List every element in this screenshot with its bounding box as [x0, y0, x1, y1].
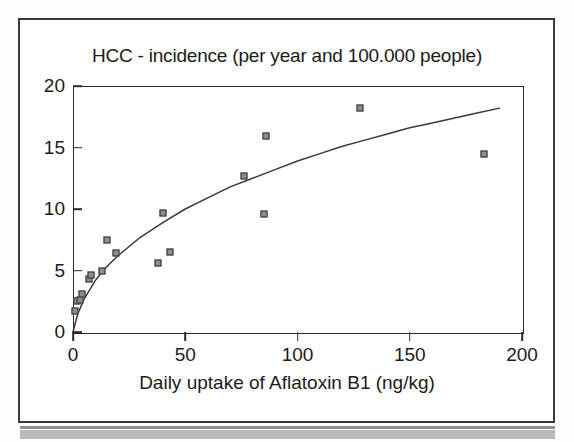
data-point	[99, 267, 106, 274]
data-point	[87, 272, 94, 279]
x-axis-label: Daily uptake of Aflatoxin B1 (ng/kg)	[0, 372, 574, 394]
data-point	[76, 297, 83, 304]
y-tick-label: 20	[44, 75, 65, 97]
x-tick-label: 150	[394, 344, 426, 366]
data-point	[357, 105, 364, 112]
data-point	[166, 249, 173, 256]
scanned-page: HCC - incidence (per year and 100.000 pe…	[0, 0, 574, 442]
data-point	[112, 250, 119, 257]
x-tick-mark	[297, 332, 299, 341]
y-tick-mark	[73, 208, 82, 210]
x-tick-mark	[184, 332, 186, 341]
data-point	[78, 290, 85, 297]
x-tick-label: 200	[506, 344, 538, 366]
x-tick-label: 100	[282, 344, 314, 366]
x-tick-mark	[72, 332, 74, 341]
data-point	[263, 133, 270, 140]
y-tick-mark	[73, 147, 82, 149]
y-tick-mark	[73, 270, 82, 272]
data-point	[159, 209, 166, 216]
y-tick-label: 10	[44, 198, 65, 220]
data-point	[155, 260, 162, 267]
y-tick-mark	[73, 331, 82, 333]
data-point	[72, 308, 79, 315]
x-tick-mark	[521, 332, 523, 341]
data-point	[260, 210, 267, 217]
data-point	[480, 150, 487, 157]
fit-curve	[73, 86, 522, 332]
plot-area	[73, 86, 522, 332]
scan-edge-shadow	[20, 426, 555, 429]
data-point	[240, 172, 247, 179]
y-tick-label: 5	[54, 260, 65, 282]
x-tick-label: 50	[175, 344, 196, 366]
y-tick-label: 15	[44, 137, 65, 159]
x-tick-label: 0	[68, 344, 79, 366]
y-tick-mark	[73, 85, 82, 87]
x-tick-mark	[409, 332, 411, 341]
chart-title: HCC - incidence (per year and 100.000 pe…	[0, 45, 574, 67]
data-point	[103, 236, 110, 243]
scan-bottom-band	[20, 430, 555, 439]
y-tick-label: 0	[54, 321, 65, 343]
